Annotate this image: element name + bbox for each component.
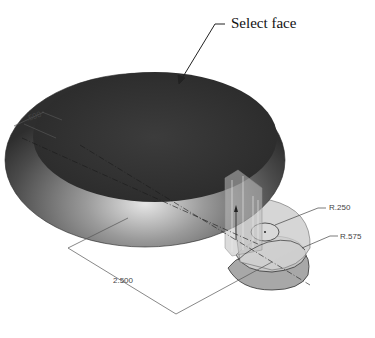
cad-model-view: Select face .500 2.500 R.250 R.575	[0, 0, 375, 338]
inner-radius-label: R.250	[329, 203, 350, 212]
cad-canvas	[0, 0, 375, 338]
outer-radius-label: R.575	[340, 232, 361, 241]
dimension-length-label: 2.500	[113, 276, 133, 285]
select-face-callout: Select face	[231, 15, 296, 32]
